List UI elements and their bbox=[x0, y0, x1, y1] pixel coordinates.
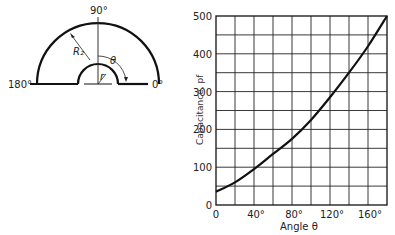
capacitance-curve bbox=[216, 16, 387, 192]
label-90: 90° bbox=[90, 5, 108, 16]
x-axis-label: Angle θ bbox=[280, 221, 318, 232]
x-tick-label: 80° bbox=[285, 209, 303, 220]
label-0: 0° bbox=[152, 79, 163, 90]
y-axis-label: Capacitance, pf bbox=[195, 74, 205, 145]
y-tick-label: 400 bbox=[193, 49, 212, 60]
chart-grid bbox=[216, 16, 387, 205]
x-tick-label: 40° bbox=[247, 209, 265, 220]
capacitance-chart: 0100200300400500 040°80°120°160° Capacit… bbox=[193, 11, 387, 232]
y-tick-label: 0 bbox=[206, 200, 212, 211]
x-tick-labels: 040°80°120°160° bbox=[213, 209, 382, 220]
arrowhead-icon bbox=[124, 77, 128, 82]
x-tick-label: 160° bbox=[358, 209, 382, 220]
x-tick-label: 120° bbox=[320, 209, 344, 220]
label-theta: θ bbox=[110, 55, 116, 66]
figure: 90° 180° 0° R₂ r θ 0100200300400500 040°… bbox=[0, 0, 395, 235]
capacitor-diagram: 90° 180° 0° R₂ r θ bbox=[8, 5, 163, 90]
y-tick-label: 100 bbox=[193, 162, 212, 173]
label-R2: R₂ bbox=[73, 46, 84, 57]
label-180: 180° bbox=[8, 79, 32, 90]
x-tick-label: 0 bbox=[213, 209, 219, 220]
arrowhead-icon bbox=[70, 33, 75, 38]
y-tick-label: 500 bbox=[193, 11, 212, 22]
